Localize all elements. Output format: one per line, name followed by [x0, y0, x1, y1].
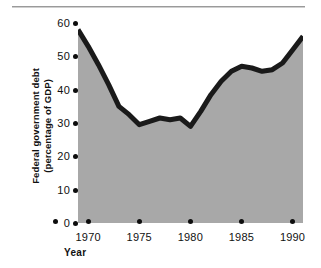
x-axis: 1970 1975 1980 1985 1990 Year — [0, 0, 321, 268]
chart-figure: Federal government debt (percentage of G… — [0, 0, 321, 268]
x-axis-tick-dot-icon — [239, 219, 244, 224]
x-axis-tick: 1970 — [76, 219, 101, 243]
x-axis-tick-dot-icon — [188, 219, 193, 224]
origin-tick-dot-icon — [53, 219, 58, 224]
x-axis-tick-dot-icon — [290, 219, 295, 224]
x-axis-tick-label: 1990 — [280, 231, 305, 243]
x-axis-tick-label: 1985 — [229, 231, 254, 243]
x-axis-tick-label: 1980 — [178, 231, 203, 243]
x-axis-tick: 1990 — [280, 219, 305, 243]
x-axis-tick: 1980 — [178, 219, 203, 243]
x-axis-tick: 1985 — [229, 219, 254, 243]
x-axis-tick-dot-icon — [137, 219, 142, 224]
x-axis-tick-label: 1970 — [76, 231, 101, 243]
x-axis-tick-label: 1975 — [127, 231, 152, 243]
x-axis-title: Year — [64, 247, 86, 258]
x-axis-tick-dot-icon — [86, 219, 91, 224]
x-axis-tick: 1975 — [127, 219, 152, 243]
